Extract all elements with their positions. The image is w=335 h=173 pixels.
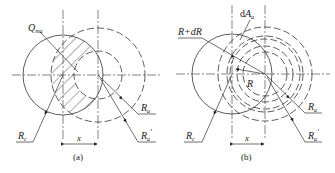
caption-a: (a) xyxy=(73,152,83,162)
label-ra-prime: Ra′ xyxy=(307,128,319,142)
label-da: dAa xyxy=(240,8,254,20)
label-q: Qma xyxy=(28,22,43,34)
figure-b: R+dR dAa R Ra Ra′ Rc x (b) xyxy=(176,5,330,162)
label-r: R xyxy=(246,78,253,89)
label-rc: Rc xyxy=(185,130,195,142)
label-ra: Ra xyxy=(140,102,150,114)
label-ra: Ra xyxy=(307,101,317,113)
label-ra-prime: Ra′ xyxy=(140,128,152,142)
caption-b: (b) xyxy=(241,152,252,162)
label-rc: Rc xyxy=(17,130,27,142)
diagram-canvas: Qma Ra Ra′ Rc x (a) R+dR xyxy=(0,0,335,173)
figure-a: Qma Ra Ra′ Rc x (a) xyxy=(12,10,160,162)
label-x: x xyxy=(76,133,81,143)
label-x: x xyxy=(244,133,249,143)
label-r-dr: R+dR xyxy=(177,26,202,37)
